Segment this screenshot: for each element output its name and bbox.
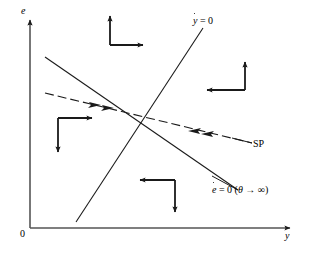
ydot-nullcline-line	[76, 28, 203, 222]
edot-nullcline-line	[45, 57, 238, 190]
infinity-symbol: ∞	[258, 184, 265, 195]
sp-arrowhead-left-1	[88, 102, 101, 108]
sp-arrowhead-left-2	[101, 105, 114, 111]
phase-diagram-canvas	[0, 0, 323, 254]
sp-arrowhead-right-2	[201, 131, 214, 137]
quadrant-right-arrows	[207, 62, 245, 90]
sp-arrowhead-right-1	[188, 128, 201, 134]
quadrant-arrow-pairs	[58, 16, 245, 212]
sp-leader-line	[232, 138, 252, 143]
edot-nullcline-label: e = 0 (θ → ∞)	[212, 185, 268, 195]
origin-label: 0	[20, 229, 25, 239]
quadrant-left-arrows	[58, 118, 92, 152]
quadrant-bottom-arrows	[140, 180, 175, 212]
saddle-path-label: SP	[253, 139, 264, 149]
phase-diagram-figure: e y 0 y = 0 SP e = 0 (θ → ∞)	[0, 0, 323, 254]
x-axis-label: y	[285, 231, 289, 241]
ydot-variable: y	[193, 16, 197, 26]
quadrant-top-arrows	[110, 16, 143, 45]
closing-paren: )	[265, 184, 268, 195]
edot-equation-rest: = 0 (	[216, 184, 237, 195]
y-axis-label: e	[21, 6, 25, 16]
limit-arrow-symbol: →	[243, 184, 258, 195]
axes-group	[30, 20, 290, 228]
ydot-nullcline-label: y = 0	[193, 16, 213, 26]
edot-variable: e	[212, 185, 216, 195]
ydot-equation-rest: = 0	[197, 15, 213, 26]
